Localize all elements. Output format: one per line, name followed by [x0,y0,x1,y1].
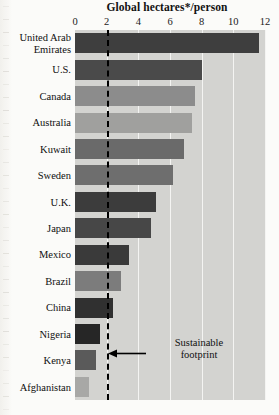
bar-row [75,60,265,80]
annotation-label: Sustainable footprint [146,337,252,361]
category-label: Sweden [0,170,71,182]
x-tick-label: 10 [228,16,239,27]
category-label: Canada [0,91,71,103]
bar-row [75,33,265,53]
bar [75,377,89,397]
bar [75,33,259,53]
chart-title: Global hectares*/person [72,1,262,13]
bar-row [75,377,265,397]
bar [75,245,129,265]
bar-row [75,86,265,106]
bar-row [75,139,265,159]
bar-chart: Global hectares*/person 024681012 United… [0,0,279,415]
category-label: U.K. [0,197,71,209]
bar-row [75,113,265,133]
bar-row [75,298,265,318]
bar [75,192,156,212]
category-label: Kuwait [0,144,71,156]
category-label: Brazil [0,276,71,288]
bar [75,324,100,344]
bar [75,139,184,159]
x-tick-label: 2 [104,16,109,27]
bar [75,113,192,133]
category-label: U.S. [0,64,71,76]
gridline [265,30,266,400]
bar-row [75,271,265,291]
sustainable-footprint-reference-line [107,30,109,400]
category-label: Japan [0,223,71,235]
x-tick-label: 12 [260,16,271,27]
category-label: China [0,302,71,314]
category-label: Afghanistan [0,382,71,394]
bar-row [75,192,265,212]
category-label: Australia [0,117,71,129]
bar [75,60,202,80]
x-tick-label: 0 [72,16,77,27]
category-label: Nigeria [0,329,71,341]
x-tick-label: 4 [136,16,141,27]
x-tick-label: 6 [167,16,172,27]
annotation-arrow-icon [108,349,146,358]
x-axis: 024681012 [0,16,279,29]
bar [75,350,96,370]
bar [75,271,121,291]
bar [75,86,195,106]
category-label: Mexico [0,249,71,261]
x-tick-label: 8 [199,16,204,27]
category-label: Kenya [0,355,71,367]
bar-row [75,245,265,265]
bar [75,218,151,238]
bar [75,165,173,185]
category-label: United Arab Emirates [0,32,71,55]
bar-row [75,218,265,238]
bar-row [75,165,265,185]
